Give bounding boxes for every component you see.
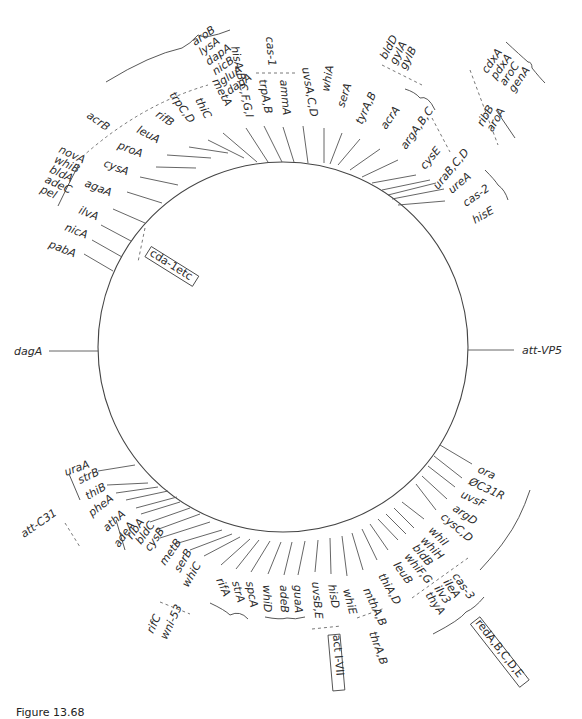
locus-label: cas-1 — [263, 36, 279, 67]
gene-tick — [382, 180, 430, 190]
gene-tick — [98, 465, 135, 471]
gene-label: cysE — [417, 144, 443, 172]
gene-tick — [330, 133, 342, 164]
gene-tick — [338, 139, 360, 165]
gene-tick — [392, 189, 444, 199]
gene-label: uvsB,E — [309, 581, 325, 619]
gene-tick — [422, 476, 447, 499]
gene-label: rifA — [213, 576, 233, 599]
gene-label: tyrA,B — [353, 90, 379, 126]
gene-tick — [283, 127, 294, 162]
gene-tick — [251, 541, 270, 572]
gene-tick — [84, 254, 113, 271]
gene-label: rifB — [153, 108, 176, 130]
group-braces — [58, 30, 545, 634]
gene-tick — [284, 542, 292, 575]
gene-label: whiE — [340, 587, 359, 616]
chromosome-circle — [98, 162, 468, 532]
gene-tick — [113, 209, 145, 223]
gene-tick — [362, 160, 398, 177]
gene-tick — [362, 529, 377, 560]
gene-tick — [246, 128, 268, 162]
gene-tick — [167, 155, 211, 158]
gene-tick — [440, 445, 472, 464]
gene-label: trpA,B — [256, 78, 275, 114]
gene-label: agaA — [83, 177, 114, 200]
gene-tick — [388, 183, 436, 195]
gene-tick — [298, 541, 305, 575]
gene-label: leuA — [135, 123, 163, 146]
gene-label: cysA — [102, 157, 131, 179]
gene-label: whiD — [260, 585, 274, 613]
gene-tick — [136, 497, 177, 508]
locus-label: thrA,B — [366, 630, 390, 667]
gene-tick — [175, 530, 222, 544]
gene-tick — [190, 534, 232, 550]
gene-label: acrA — [378, 104, 403, 132]
gene-tick — [352, 533, 363, 570]
gene-tick — [126, 491, 168, 500]
gene-tick — [264, 126, 282, 162]
gene-tick — [127, 192, 162, 203]
boxed-locus-label: redA,B,C,D,E — [473, 617, 526, 680]
gene-tick — [107, 483, 148, 485]
gene-tick — [330, 538, 331, 574]
gene-tick — [372, 175, 416, 183]
gene-label: serA — [334, 82, 354, 109]
locus-label: acrB — [84, 109, 112, 134]
gene-tick — [141, 502, 180, 514]
gene-label: adeB — [277, 585, 291, 613]
gene-tick — [303, 126, 308, 163]
locus-label: att-C31 — [18, 506, 59, 540]
gene-label: guaA — [291, 585, 305, 614]
gene-tick — [268, 542, 281, 574]
gene-label: hisE — [470, 204, 496, 227]
boxed-locus-label: cda-1etc — [147, 247, 194, 283]
genetic-linkage-map: dagAatt-VP5pabAnicAilvAagaAcysAproAleuAr… — [0, 0, 582, 719]
marker-label: dagA — [14, 345, 42, 358]
gene-tick — [350, 149, 380, 170]
gene-tick — [402, 502, 424, 519]
gene-label: argA,B,C — [398, 105, 436, 152]
gene-tick — [208, 140, 244, 158]
gene-label: proA — [115, 138, 145, 160]
gene-tick — [221, 539, 250, 565]
gene-label: hisD — [325, 583, 342, 609]
gene-label: whiA — [319, 64, 336, 92]
gene-tick — [416, 484, 436, 510]
gene-labels: dagAatt-VP5pabAnicAilvAagaAcysAproAleuAr… — [14, 23, 562, 691]
gene-label: uvsA,C,D — [299, 66, 321, 118]
marker-label: att-VP5 — [522, 344, 562, 357]
gene-tick — [398, 201, 445, 205]
gene-tick — [101, 225, 131, 241]
gene-label: ammA — [277, 79, 293, 116]
gene-tick — [370, 524, 388, 550]
gene-label: ilvA — [77, 204, 101, 224]
gene-label: nicA — [63, 221, 90, 242]
gene-label: pabA — [46, 237, 78, 260]
gene-tick — [156, 167, 196, 168]
gene-tick — [92, 240, 122, 257]
gene-tick — [315, 540, 318, 572]
boxed-locus-label: act I-VII — [330, 634, 347, 676]
gene-tick — [434, 456, 462, 478]
gene-tick — [342, 536, 347, 576]
figure-caption: Figure 13.68 — [16, 706, 85, 719]
gene-tick — [189, 147, 228, 153]
gene-tick — [116, 487, 158, 493]
gene-tick — [140, 177, 178, 185]
gene-tick — [378, 519, 398, 540]
